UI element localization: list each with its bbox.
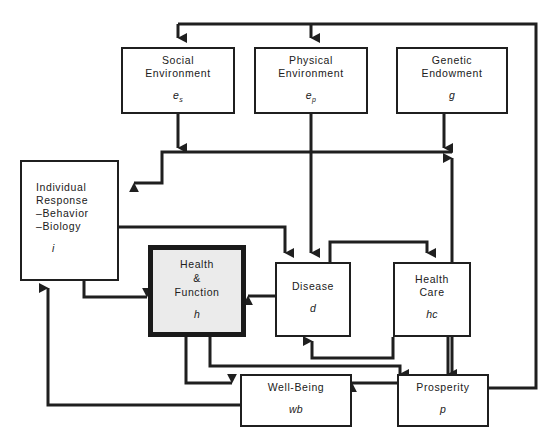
node-symbol: ep bbox=[306, 89, 316, 106]
node-physical-environment[interactable]: Physical Environment ep bbox=[254, 47, 368, 114]
node-well-being[interactable]: Well-Being wb bbox=[240, 374, 352, 427]
node-label: Well-Being bbox=[268, 381, 325, 394]
node-label: Physical Environment bbox=[278, 54, 344, 80]
node-label: Disease bbox=[292, 280, 334, 293]
node-label: Health & Function bbox=[174, 257, 219, 299]
node-symbol: hc bbox=[426, 308, 438, 325]
field-model-diagram: Social Environment es Physical Environme… bbox=[0, 0, 555, 441]
node-label: Prosperity bbox=[416, 381, 469, 394]
edge-cross-rail bbox=[134, 152, 452, 183]
edge-health-care-to-disease bbox=[312, 337, 393, 358]
node-symbol: wb bbox=[289, 403, 303, 420]
node-symbol: h bbox=[194, 308, 200, 325]
edge-individual-response-to-health-function bbox=[84, 281, 147, 297]
node-symbol: es bbox=[173, 89, 183, 106]
node-individual-response[interactable]: Individual Response –Behavior –Biology i bbox=[20, 160, 119, 281]
node-health-and-function[interactable]: Health & Function h bbox=[149, 246, 245, 336]
node-symbol: d bbox=[310, 302, 316, 319]
edge-health-function-to-prosperity bbox=[210, 336, 400, 374]
node-label: Genetic Endowment bbox=[422, 54, 483, 80]
node-health-care[interactable]: Health Care hc bbox=[393, 262, 471, 337]
node-label: Social Environment bbox=[145, 54, 211, 80]
node-genetic-endowment[interactable]: Genetic Endowment g bbox=[396, 47, 508, 114]
node-label: Health Care bbox=[415, 273, 449, 299]
node-symbol: p bbox=[440, 403, 446, 420]
node-prosperity[interactable]: Prosperity p bbox=[397, 374, 489, 427]
node-symbol: i bbox=[22, 242, 55, 259]
node-social-environment[interactable]: Social Environment es bbox=[121, 47, 235, 114]
node-label: Individual Response –Behavior –Biology bbox=[22, 181, 89, 233]
node-disease[interactable]: Disease d bbox=[275, 262, 351, 337]
node-symbol: g bbox=[449, 89, 455, 106]
